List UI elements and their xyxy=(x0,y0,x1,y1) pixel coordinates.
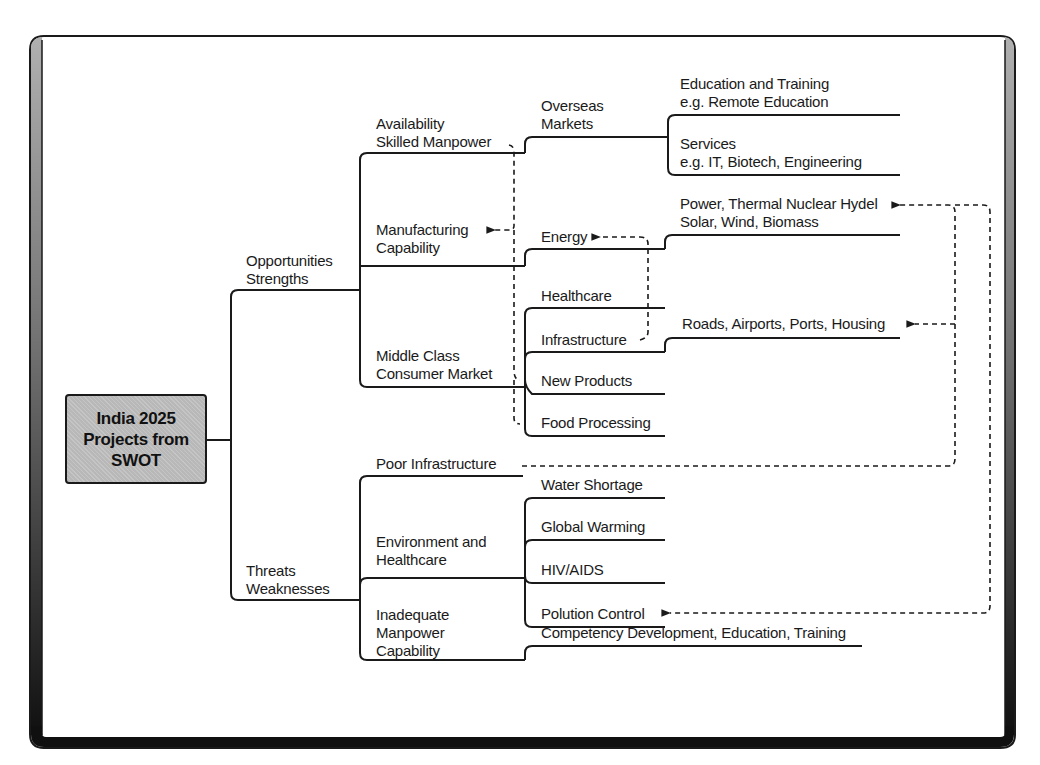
node-manufacturing: Manufacturing Capability xyxy=(376,221,468,257)
node-label: Threats xyxy=(246,562,330,580)
node-opportunities: Opportunities Strengths xyxy=(246,252,333,288)
node-energy: Energy xyxy=(541,228,587,246)
node-threats: Threats Weaknesses xyxy=(246,562,330,598)
node-label: Availability xyxy=(376,115,491,133)
node-label: Education and Training xyxy=(680,75,829,93)
node-label: Middle Class xyxy=(376,347,492,365)
node-education: Education and Training e.g. Remote Educa… xyxy=(680,75,829,111)
node-infrastructure: Infrastructure xyxy=(541,331,627,349)
node-label: e.g. IT, Biotech, Engineering xyxy=(680,153,862,171)
node-water-shortage: Water Shortage xyxy=(541,476,643,494)
node-competency: Competency Development, Education, Train… xyxy=(541,624,846,642)
node-label: Solar, Wind, Biomass xyxy=(680,213,878,231)
node-polution-control: Polution Control xyxy=(541,605,645,623)
node-label: Manpower xyxy=(376,624,449,642)
node-label: Overseas xyxy=(541,97,604,115)
node-label: Opportunities xyxy=(246,252,333,270)
node-label: Capability xyxy=(376,642,449,660)
node-label: Manufacturing xyxy=(376,221,468,239)
node-label: Strengths xyxy=(246,270,333,288)
node-label: Capability xyxy=(376,239,468,257)
node-label: Environment and xyxy=(376,533,486,551)
node-overseas: Overseas Markets xyxy=(541,97,604,133)
node-roads: Roads, Airports, Ports, Housing xyxy=(682,315,885,333)
diagram-canvas xyxy=(0,0,1040,765)
node-label: Markets xyxy=(541,115,604,133)
node-global-warming: Global Warming xyxy=(541,518,645,536)
node-label: Inadequate xyxy=(376,606,449,624)
node-services: Services e.g. IT, Biotech, Engineering xyxy=(680,135,862,171)
node-healthcare: Healthcare xyxy=(541,287,612,305)
node-hiv-aids: HIV/AIDS xyxy=(541,561,604,579)
node-poor-infrastructure: Poor Infrastructure xyxy=(376,455,496,473)
node-food-processing: Food Processing xyxy=(541,414,651,432)
frame-border xyxy=(30,36,1015,748)
root-title: India 2025 Projects from SWOT xyxy=(83,408,189,471)
node-label: Consumer Market xyxy=(376,365,492,383)
node-label: Power, Thermal Nuclear Hydel xyxy=(680,195,878,213)
root-line-1: India 2025 xyxy=(83,408,189,429)
node-new-products: New Products xyxy=(541,372,632,390)
node-label: Weaknesses xyxy=(246,580,330,598)
node-environment: Environment and Healthcare xyxy=(376,533,486,569)
node-power: Power, Thermal Nuclear Hydel Solar, Wind… xyxy=(680,195,878,231)
node-label: e.g. Remote Education xyxy=(680,93,829,111)
node-availability: Availability Skilled Manpower xyxy=(376,115,491,151)
root-line-3: SWOT xyxy=(83,450,189,471)
node-inadequate: Inadequate Manpower Capability xyxy=(376,606,449,660)
root-line-2: Projects from xyxy=(83,429,189,450)
node-label: Skilled Manpower xyxy=(376,133,491,151)
node-label: Services xyxy=(680,135,862,153)
node-label: Healthcare xyxy=(376,551,486,569)
node-middle-class: Middle Class Consumer Market xyxy=(376,347,492,383)
root-node: India 2025 Projects from SWOT xyxy=(65,394,207,484)
